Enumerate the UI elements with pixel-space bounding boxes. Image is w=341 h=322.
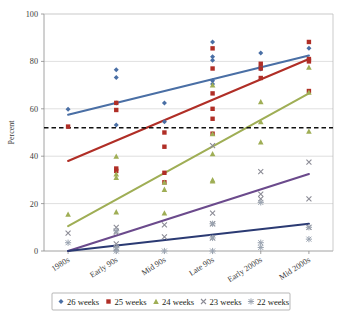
- point-22-weeks: [113, 228, 119, 234]
- point-26-weeks: [210, 39, 215, 44]
- point-25-weeks: [162, 171, 166, 175]
- scatter-chart-canvas: 0204060801001980sEarly 90sMid 90sLate 90…: [0, 0, 341, 322]
- trendline-22-weeks: [68, 224, 309, 251]
- point-22-weeks: [306, 236, 312, 242]
- y-tick-label: 60: [30, 105, 38, 114]
- point-23-weeks: [306, 160, 311, 165]
- y-tick-label: 0: [34, 247, 38, 256]
- point-25-weeks: [259, 76, 263, 80]
- point-25-weeks: [210, 46, 214, 50]
- point-22-weeks: [306, 224, 312, 230]
- legend-label: 24 weeks: [162, 297, 195, 307]
- point-24-weeks: [306, 129, 312, 134]
- series-26-weeks: [66, 39, 312, 127]
- x-tick-label-early-90s: Early 90s: [88, 255, 119, 280]
- point-25-weeks: [114, 101, 118, 105]
- point-25-weeks: [210, 117, 214, 121]
- trendline-23-weeks: [68, 174, 309, 251]
- point-23-weeks: [306, 196, 311, 201]
- point-25-weeks: [210, 66, 214, 70]
- trendline-24-weeks: [68, 93, 309, 226]
- y-tick-label: 100: [26, 10, 38, 19]
- x-tick-label-late-90s: Late 90s: [187, 255, 215, 278]
- y-axis-title: Percent: [7, 120, 16, 145]
- legend-label: 25 weeks: [115, 297, 148, 307]
- point-26-weeks: [306, 46, 311, 51]
- point-26-weeks: [66, 107, 71, 112]
- point-24-weeks: [162, 210, 168, 215]
- point-22-weeks: [113, 248, 119, 254]
- point-23-weeks: [258, 169, 263, 174]
- point-26-weeks: [210, 58, 215, 63]
- trend-lines: [68, 55, 309, 251]
- point-22-weeks: [209, 235, 215, 241]
- y-tick-label: 20: [30, 200, 38, 209]
- series-24-weeks: [65, 65, 311, 217]
- point-23-weeks: [66, 231, 71, 236]
- point-23-weeks: [162, 222, 167, 227]
- x-tick-label-early-2000s: Early 2000s: [226, 255, 264, 284]
- point-26-weeks: [114, 122, 119, 127]
- y-gridlines: 020406080100: [26, 10, 333, 256]
- point-24-weeks: [258, 139, 264, 144]
- x-tick-label-mid-90s: Mid 90s: [140, 255, 168, 277]
- trendline-26-weeks: [68, 55, 309, 114]
- point-23-weeks: [210, 211, 215, 216]
- y-tick-label: 40: [30, 152, 38, 161]
- legend-marker-square-icon: [106, 299, 110, 303]
- x-axis-labels: 1980sEarly 90sMid 90sLate 90sEarly 2000s…: [50, 251, 312, 284]
- point-22-weeks: [161, 248, 167, 254]
- point-22-weeks: [65, 240, 71, 246]
- y-tick-label: 80: [30, 57, 38, 66]
- point-25-weeks: [259, 66, 263, 70]
- point-25-weeks: [259, 62, 263, 66]
- point-25-weeks: [114, 108, 118, 112]
- point-26-weeks: [114, 67, 119, 72]
- point-25-weeks: [210, 91, 214, 95]
- point-23-weeks: [162, 234, 167, 239]
- point-23-weeks: [258, 192, 263, 197]
- point-22-weeks: [209, 248, 215, 254]
- point-25-weeks: [162, 130, 166, 134]
- point-25-weeks: [162, 145, 166, 149]
- point-24-weeks: [162, 187, 168, 192]
- point-24-weeks: [210, 82, 216, 87]
- point-26-weeks: [114, 75, 119, 80]
- point-25-weeks: [210, 107, 214, 111]
- point-24-weeks: [113, 209, 119, 214]
- point-25-weeks: [307, 40, 311, 44]
- chart-legend: 26 weeks25 weeks24 weeks23 weeks22 weeks: [52, 293, 290, 310]
- point-24-weeks: [210, 151, 216, 156]
- point-24-weeks: [258, 99, 264, 104]
- point-24-weeks: [306, 65, 312, 70]
- trendline-25-weeks: [68, 59, 309, 161]
- point-25-weeks: [66, 124, 70, 128]
- point-22-weeks: [258, 244, 264, 250]
- point-22-weeks: [209, 221, 215, 227]
- x-tick-label-1980s: 1980s: [50, 255, 71, 273]
- point-24-weeks: [65, 211, 71, 216]
- chart-figure: 0204060801001980sEarly 90sMid 90sLate 90…: [0, 0, 341, 322]
- legend-marker-asterisk-icon: [248, 298, 254, 304]
- point-26-weeks: [162, 100, 167, 105]
- legend-label: 22 weeks: [257, 297, 290, 307]
- legend-label: 23 weeks: [210, 297, 243, 307]
- point-25-weeks: [307, 59, 311, 63]
- point-26-weeks: [258, 51, 263, 56]
- legend-label: 26 weeks: [67, 297, 100, 307]
- x-tick-label-mid-2000s: Mid 2000s: [278, 255, 312, 282]
- point-22-weeks: [258, 199, 264, 205]
